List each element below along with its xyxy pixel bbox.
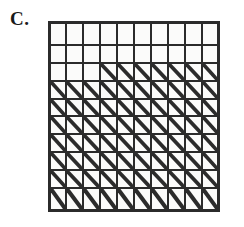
grid-cell-hatched	[151, 81, 168, 99]
grid-cell-hatched	[168, 134, 185, 152]
grid-cell-hatched	[151, 63, 168, 81]
grid-cell-empty	[185, 45, 202, 63]
grid-cell-hatched	[151, 134, 168, 152]
grid-cell-hatched	[83, 99, 100, 117]
grid-cell-hatched	[134, 81, 151, 99]
diagonal-hatch-icon	[169, 64, 184, 80]
grid-cell-hatched	[100, 152, 117, 170]
diagonal-hatch-icon	[203, 135, 217, 151]
grid-cell-empty	[50, 63, 67, 81]
diagonal-hatch-icon	[51, 100, 65, 116]
diagonal-hatch-icon	[67, 100, 82, 116]
grid-cell-hatched	[202, 170, 219, 188]
grid-cell-hatched	[168, 99, 185, 117]
grid-cell-hatched	[66, 170, 83, 188]
grid-cell-hatched	[117, 170, 134, 188]
grid-cell-hatched	[168, 188, 185, 211]
grid-cell-empty	[185, 23, 202, 45]
grid-cell-hatched	[185, 81, 202, 99]
grid-cell-hatched	[185, 188, 202, 211]
grid-cell-hatched	[134, 152, 151, 170]
diagonal-hatch-icon	[51, 153, 65, 169]
diagonal-hatch-icon	[101, 153, 116, 169]
grid-cell-hatched	[202, 134, 219, 152]
grid-cell-hatched	[185, 134, 202, 152]
diagonal-hatch-icon	[169, 100, 184, 116]
grid-cell-empty	[100, 45, 117, 63]
grid-cell-hatched	[151, 116, 168, 134]
grid-cell-hatched	[66, 188, 83, 211]
diagonal-hatch-icon	[186, 100, 201, 116]
grid-cell-hatched	[168, 152, 185, 170]
diagonal-hatch-icon	[152, 64, 167, 80]
grid-row	[50, 152, 219, 170]
grid-cell-hatched	[117, 99, 134, 117]
diagonal-hatch-icon	[51, 135, 65, 151]
grid-cell-empty	[168, 45, 185, 63]
grid-cell-empty	[151, 23, 168, 45]
diagonal-hatch-icon	[101, 100, 116, 116]
diagonal-hatch-icon	[84, 82, 99, 98]
diagonal-hatch-icon	[101, 117, 116, 133]
diagonal-hatch-icon	[203, 64, 217, 80]
diagonal-hatch-icon	[51, 82, 65, 98]
diagonal-hatch-icon	[152, 135, 167, 151]
diagonal-hatch-icon	[118, 189, 133, 209]
diagonal-hatch-icon	[84, 171, 99, 187]
grid-cell-hatched	[202, 116, 219, 134]
grid-cell-hatched	[134, 99, 151, 117]
diagonal-hatch-icon	[135, 135, 150, 151]
grid-cell-hatched	[185, 152, 202, 170]
diagonal-hatch-icon	[186, 153, 201, 169]
grid-cell-hatched	[100, 99, 117, 117]
grid-cell-hatched	[117, 134, 134, 152]
grid-cell-empty	[134, 23, 151, 45]
diagonal-hatch-icon	[67, 153, 82, 169]
grid-cell-hatched	[66, 116, 83, 134]
diagonal-hatch-icon	[186, 117, 201, 133]
diagonal-hatch-icon	[101, 135, 116, 151]
grid-cell-empty	[83, 63, 100, 81]
grid-cell-hatched	[100, 81, 117, 99]
grid-cell-empty	[151, 45, 168, 63]
diagonal-hatch-icon	[67, 189, 82, 209]
diagonal-hatch-icon	[84, 189, 99, 209]
diagonal-hatch-icon	[67, 117, 82, 133]
grid-cell-hatched	[168, 63, 185, 81]
grid-cell-hatched	[151, 152, 168, 170]
grid-cell-empty	[134, 45, 151, 63]
diagonal-hatch-icon	[203, 82, 217, 98]
grid-cell-hatched	[83, 188, 100, 211]
grid-row	[50, 188, 219, 211]
diagonal-hatch-icon	[67, 135, 82, 151]
grid-cell-hatched	[117, 152, 134, 170]
grid-cell-hatched	[117, 116, 134, 134]
grid-cell-empty	[50, 45, 67, 63]
grid-cell-hatched	[100, 188, 117, 211]
diagonal-hatch-icon	[203, 171, 217, 187]
diagonal-hatch-icon	[169, 82, 184, 98]
diagonal-hatch-icon	[118, 135, 133, 151]
grid-cell-hatched	[134, 188, 151, 211]
grid-cell-hatched	[202, 188, 219, 211]
figure-panel: C.	[0, 0, 244, 227]
grid-cell-hatched	[50, 81, 67, 99]
diagonal-hatch-icon	[135, 171, 150, 187]
grid-cell-hatched	[134, 116, 151, 134]
grid-cell-hatched	[66, 99, 83, 117]
grid-cell-hatched	[100, 63, 117, 81]
diagonal-hatch-icon	[118, 153, 133, 169]
diagonal-hatch-icon	[152, 171, 167, 187]
diagonal-hatch-icon	[203, 117, 217, 133]
grid-row	[50, 23, 219, 45]
diagonal-hatch-icon	[169, 153, 184, 169]
grid-cell-hatched	[50, 188, 67, 211]
diagonal-hatch-icon	[152, 117, 167, 133]
grid-cell-empty	[202, 23, 219, 45]
grid-diagram	[48, 21, 220, 212]
figure-label: C.	[10, 9, 29, 28]
diagonal-hatch-icon	[169, 189, 184, 209]
grid-cell-empty	[83, 23, 100, 45]
diagonal-hatch-icon	[186, 171, 201, 187]
grid-cell-hatched	[83, 81, 100, 99]
